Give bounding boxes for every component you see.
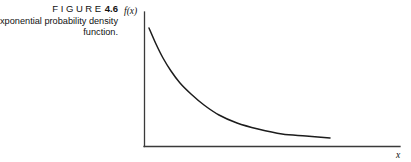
exponential-density-plot: f(x) x <box>0 0 411 162</box>
exponential-density-curve <box>149 28 330 138</box>
x-axis-label: x <box>395 150 401 160</box>
figure-container: FIGURE4.6 xponential probability density… <box>0 0 411 162</box>
y-axis-label: f(x) <box>124 6 137 17</box>
plot-area: f(x) x <box>0 0 411 162</box>
